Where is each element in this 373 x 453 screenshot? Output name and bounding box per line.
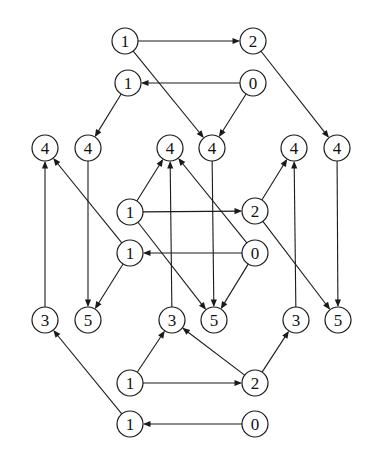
edge-line: [137, 332, 164, 372]
graph-canvas: 121044444412103535351210: [0, 0, 373, 453]
graph-edge: [141, 80, 240, 86]
node-label: 4: [290, 139, 299, 158]
arrowhead-icon: [234, 208, 242, 214]
node-label: 2: [251, 202, 260, 221]
node-label: 3: [41, 311, 50, 330]
node-label: 4: [333, 139, 342, 158]
arrowhead-icon: [143, 421, 151, 427]
arrowhead-icon: [235, 380, 243, 386]
graph-node[interactable]: 2: [242, 370, 268, 396]
node-label: 1: [124, 74, 133, 93]
graph-edge: [261, 51, 329, 138]
graph-node[interactable]: 4: [281, 135, 307, 161]
graph-edge: [85, 161, 91, 307]
graph-diagram: 121044444412103535351210: [0, 0, 373, 453]
graph-node[interactable]: 1: [112, 28, 138, 54]
graph-edge: [182, 328, 244, 375]
graph-node[interactable]: 1: [117, 411, 143, 437]
arrowhead-icon: [219, 129, 226, 137]
graph-node[interactable]: 3: [159, 307, 185, 333]
graph-edge: [143, 250, 242, 256]
arrowhead-icon: [42, 161, 48, 169]
graph-node[interactable]: 2: [240, 28, 266, 54]
graph-edge: [263, 221, 330, 309]
graph-edge: [143, 421, 242, 427]
graph-edge: [143, 208, 242, 214]
node-label: 1: [126, 203, 135, 222]
node-label: 1: [126, 374, 135, 393]
graph-node[interactable]: 5: [201, 307, 227, 333]
graph-node[interactable]: 5: [325, 307, 351, 333]
arrowhead-icon: [221, 301, 228, 309]
graph-edge: [53, 330, 122, 414]
edge-line: [261, 51, 328, 136]
node-label: 0: [251, 244, 260, 263]
graph-node[interactable]: 1: [117, 370, 143, 396]
node-label: 4: [166, 139, 175, 158]
graph-node[interactable]: 4: [32, 135, 58, 161]
node-label: 0: [251, 415, 260, 434]
graph-edge: [42, 161, 48, 307]
graph-edge: [95, 264, 123, 309]
arrowhead-icon: [157, 159, 164, 167]
edge-line: [137, 160, 162, 201]
graph-node[interactable]: 4: [199, 135, 225, 161]
arrowhead-icon: [85, 300, 91, 308]
edge-line: [96, 94, 122, 136]
node-label: 3: [168, 311, 177, 330]
graph-node[interactable]: 1: [115, 70, 141, 96]
graph-node[interactable]: 4: [75, 135, 101, 161]
arrowhead-icon: [323, 302, 330, 310]
arrowhead-icon: [182, 328, 190, 335]
edge-line: [96, 264, 123, 308]
arrowhead-icon: [335, 299, 341, 307]
graph-node[interactable]: 2: [242, 198, 268, 224]
graph-node[interactable]: 3: [283, 307, 309, 333]
edge-line: [170, 162, 172, 307]
graph-edge: [133, 51, 204, 138]
node-label: 4: [41, 139, 50, 158]
graph-node[interactable]: 1: [117, 240, 143, 266]
graph-node[interactable]: 1: [117, 199, 143, 225]
node-label: 5: [334, 311, 343, 330]
nodes-layer: 121044444412103535351210: [32, 28, 351, 437]
edge-line: [222, 264, 249, 308]
graph-edge: [137, 159, 163, 201]
arrowhead-icon: [158, 331, 165, 339]
node-label: 4: [208, 139, 217, 158]
arrowhead-icon: [95, 129, 102, 137]
graph-edge: [211, 161, 217, 307]
graph-edge: [291, 161, 297, 307]
arrowhead-icon: [282, 331, 289, 339]
graph-edge: [138, 38, 240, 44]
node-label: 5: [210, 311, 219, 330]
graph-edge: [167, 161, 173, 307]
graph-edge: [262, 331, 289, 372]
graph-edge: [143, 380, 242, 386]
graph-node[interactable]: 0: [242, 240, 268, 266]
graph-edge: [335, 161, 341, 307]
node-label: 4: [84, 139, 93, 158]
graph-edge: [262, 159, 287, 200]
arrowhead-icon: [95, 301, 102, 309]
arrowhead-icon: [233, 38, 241, 44]
graph-node[interactable]: 3: [32, 307, 58, 333]
graph-node[interactable]: 4: [157, 135, 183, 161]
graph-node[interactable]: 4: [324, 135, 350, 161]
node-label: 1: [126, 415, 135, 434]
edge-line: [262, 332, 288, 372]
edge-line: [133, 51, 203, 137]
graph-node[interactable]: 0: [242, 411, 268, 437]
node-label: 3: [292, 311, 301, 330]
arrowhead-icon: [167, 161, 173, 169]
node-label: 5: [84, 311, 93, 330]
arrowhead-icon: [281, 159, 288, 167]
graph-node[interactable]: 5: [75, 307, 101, 333]
arrowhead-icon: [291, 161, 297, 169]
arrowhead-icon: [199, 302, 206, 310]
edge-line: [294, 162, 296, 307]
edge-line: [143, 211, 241, 212]
edge-line: [262, 160, 287, 200]
graph-node[interactable]: 0: [240, 70, 266, 96]
arrowhead-icon: [143, 250, 151, 256]
